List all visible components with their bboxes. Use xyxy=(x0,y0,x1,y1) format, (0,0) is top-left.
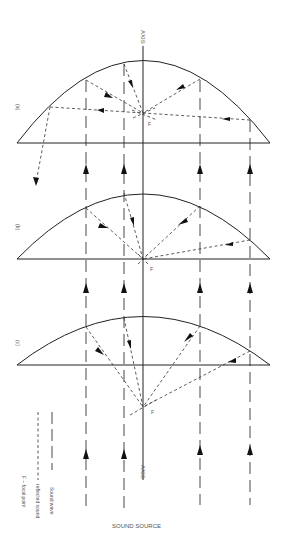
sound-waves xyxy=(86,64,250,510)
panel-c-label: (c) xyxy=(15,340,21,346)
sound-source-label: SOUND SOURCE xyxy=(112,523,161,529)
panel-b-label: (b) xyxy=(15,224,21,230)
focal-label-a: F xyxy=(148,121,151,127)
legend-focal-point: F – focal point xyxy=(21,476,27,508)
reflector-diagram: AXIS AXIS (a) F (b) xyxy=(0,0,289,559)
panel-a-label: (a) xyxy=(15,104,21,110)
legend-reflected-sound: reflected sound xyxy=(35,484,41,518)
focal-label-b: F xyxy=(150,266,153,272)
focal-label-c: F xyxy=(151,409,154,415)
legend-sound-wave: Sound wave xyxy=(49,487,55,515)
axis-label-top: AXIS xyxy=(140,30,146,44)
legend: Sound wave reflected sound F – focal poi… xyxy=(21,412,55,518)
axis-label-bottom: AXIS xyxy=(140,465,146,479)
wave-arrows xyxy=(83,164,253,459)
